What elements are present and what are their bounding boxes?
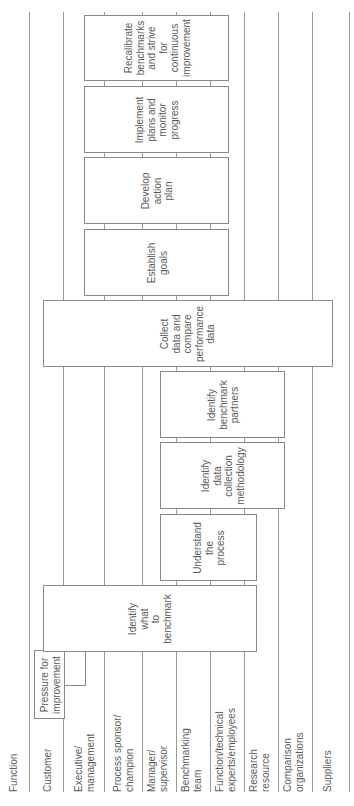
connector-line (85, 652, 86, 686)
lane-label-process-sponsor: Process sponsor/ champion (112, 715, 135, 792)
step-label: Develop action plan (139, 172, 174, 209)
step-implement-plans: Implement plans and monitor progress (84, 86, 229, 153)
lane-divider (29, 12, 30, 792)
pressure-label: Pressure for improvement (38, 656, 61, 714)
lane-label-function-technical: Function/technical experts/employees (214, 708, 237, 792)
connector-line (64, 685, 85, 686)
lane-label-customer: Customer (42, 749, 54, 792)
lane-label-benchmarking-team: Benchmarking team (180, 728, 203, 792)
lane-divider (312, 12, 313, 792)
step-label: Collect data and compare performance dat… (159, 305, 217, 361)
step-label: Implement plans and monitor progress (134, 96, 180, 143)
step-identify-what-to-benchmark: Identify what to benchmark (43, 585, 257, 652)
step-develop-action-plan: Develop action plan (84, 157, 229, 224)
step-identify-benchmark-partners: Identify benchmark partners (160, 371, 285, 438)
step-identify-data-collection: Identify data collection methodology (160, 442, 285, 509)
step-label: Understand the process (191, 522, 226, 574)
step-label: Establish goals (145, 242, 168, 283)
lane-label-comparison: Comparison organizations (282, 733, 305, 792)
pressure-for-improvement-box: Pressure for improvement (34, 650, 65, 719)
lane-label-executive: Executive/ management (73, 734, 96, 792)
lane-label-manager: Manager/ supervisor (146, 746, 169, 792)
header-function: Function (8, 754, 20, 792)
step-label: Identify what to benchmark (127, 594, 173, 643)
step-collect-data: Collect data and compare performance dat… (43, 300, 333, 367)
step-understand-the-process: Understand the process (160, 514, 257, 581)
lane-label-research: Research resource (248, 749, 271, 792)
lane-label-suppliers: Suppliers (322, 750, 334, 792)
step-establish-goals: Establish goals (84, 229, 229, 296)
step-label: Recalibrate benchmarks and strive for co… (122, 19, 191, 77)
step-recalibrate-benchmarks: Recalibrate benchmarks and strive for co… (84, 15, 229, 81)
step-label: Identify benchmark partners (205, 380, 240, 429)
step-label: Identify data collection methodology (200, 447, 246, 504)
lane-divider (349, 12, 350, 792)
